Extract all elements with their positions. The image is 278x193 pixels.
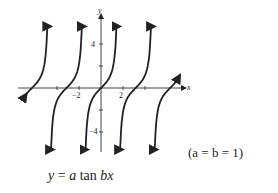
- tan-graph: [0, 0, 278, 193]
- tan-branch: [25, 26, 48, 96]
- x-tick-2: 2: [119, 91, 123, 100]
- y-tick-4: 4: [91, 40, 95, 49]
- y-axis-label: y: [98, 6, 102, 15]
- x-axis-label: x: [187, 83, 191, 92]
- parameter-note: (a = b = 1): [188, 145, 243, 161]
- y-tick-neg4: −4: [89, 127, 98, 136]
- x-tick-neg2: −2: [72, 91, 81, 100]
- equation: y = a tan bx: [48, 168, 113, 184]
- tan-branch: [154, 78, 178, 150]
